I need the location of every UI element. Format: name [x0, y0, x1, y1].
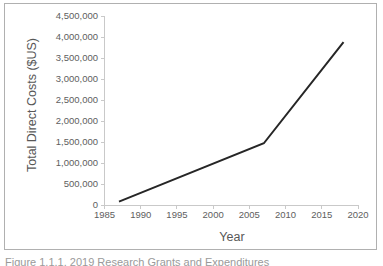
figure-caption: Figure 1.1.1. 2019 Research Grants and E…: [5, 256, 378, 266]
data-series-lines: [119, 42, 344, 202]
figure-container: Total Direct Costs ($US) 0500,0001,000,0…: [0, 0, 383, 266]
x-tick-label: 1985: [85, 209, 125, 220]
data-line: [119, 42, 344, 202]
x-tick-label: 1990: [121, 209, 161, 220]
x-tick-label: 2020: [338, 209, 378, 220]
x-tick-label: 2005: [229, 209, 269, 220]
plot-area: [0, 0, 383, 266]
x-axis-title: Year: [104, 230, 360, 244]
x-tick-label: 1995: [157, 209, 197, 220]
x-axis-tick-labels: 19851990199520002005201020152020: [0, 209, 383, 223]
x-tick-label: 2015: [302, 209, 342, 220]
x-tick-label: 2000: [193, 209, 233, 220]
x-tick-label: 2010: [266, 209, 306, 220]
tick-marks: [101, 16, 358, 209]
axis-lines: [105, 16, 359, 205]
